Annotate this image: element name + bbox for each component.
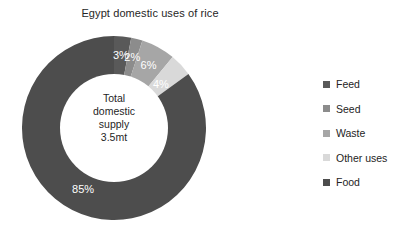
center-annotation: Total domestic supply 3.5mt (76, 92, 152, 144)
legend-swatch-icon (323, 130, 330, 137)
legend-item-label: Other uses (336, 152, 387, 164)
chart-legend: FeedSeedWasteOther usesFood (323, 72, 403, 195)
center-line-2: domestic (76, 105, 152, 118)
legend-swatch-icon (323, 105, 330, 112)
legend-item-label: Feed (336, 78, 360, 90)
center-line-1: Total (76, 92, 152, 105)
chart-title: Egypt domestic uses of rice (0, 7, 300, 19)
legend-item[interactable]: Food (323, 170, 403, 195)
legend-item[interactable]: Feed (323, 72, 403, 97)
donut-chart: Egypt domestic uses of rice Total domest… (0, 0, 406, 239)
legend-swatch-icon (323, 179, 330, 186)
legend-item[interactable]: Seed (323, 97, 403, 122)
center-line-3: supply (76, 118, 152, 131)
legend-swatch-icon (323, 154, 330, 161)
donut-plot-area: Total domestic supply 3.5mt 3%2%6%4%85% (22, 36, 206, 220)
legend-item-label: Seed (336, 103, 361, 115)
legend-item-label: Food (336, 176, 360, 188)
legend-item-label: Waste (336, 127, 365, 139)
center-line-4: 3.5mt (76, 131, 152, 144)
legend-swatch-icon (323, 81, 330, 88)
legend-item[interactable]: Other uses (323, 146, 403, 171)
legend-item[interactable]: Waste (323, 121, 403, 146)
